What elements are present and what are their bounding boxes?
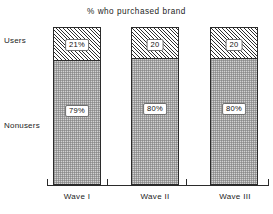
bar-segment-users-wave-iii: 20	[210, 27, 258, 59]
stacked-bar-chart: % who purchased brand Users Nonusers 21%…	[0, 0, 273, 214]
value-label-users-wave-ii: 20	[147, 39, 164, 51]
value-label-nonusers-wave-ii: 80%	[143, 103, 167, 115]
bar-segment-nonusers-wave-iii: 80%	[210, 58, 258, 185]
value-label-nonusers-wave-iii: 80%	[222, 103, 246, 115]
bar-wave-ii: 20 80%	[131, 27, 179, 185]
axis-label-wave-i: Wave I	[47, 192, 107, 201]
plot-area: 21% 79% 20 80% 20 80%	[0, 0, 273, 214]
value-label-users-wave-iii: 20	[226, 39, 243, 51]
axis-tick-start	[47, 179, 48, 185]
bar-wave-iii: 20 80%	[210, 27, 258, 185]
value-label-nonusers-wave-i: 79%	[65, 105, 89, 117]
bar-segment-nonusers-wave-ii: 80%	[131, 58, 179, 185]
axis-tick-1	[107, 179, 108, 185]
axis-label-wave-iii: Wave III	[204, 192, 266, 201]
bar-segment-nonusers-wave-i: 79%	[53, 60, 101, 185]
bar-segment-users-wave-ii: 20	[131, 27, 179, 59]
bar-segment-users-wave-i: 21%	[53, 27, 101, 61]
x-axis-line	[47, 185, 269, 186]
axis-tick-end	[268, 179, 269, 185]
bar-wave-i: 21% 79%	[53, 27, 101, 185]
value-label-users-wave-i: 21%	[65, 39, 89, 51]
axis-label-wave-ii: Wave II	[125, 192, 185, 201]
axis-tick-2	[186, 179, 187, 185]
